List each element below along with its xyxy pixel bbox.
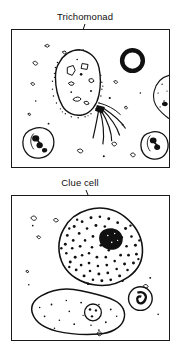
normal-epithelial-cell-nucleus: [85, 304, 102, 321]
yeast-ring: [122, 50, 143, 71]
clue-cell-nucleus: [99, 228, 123, 250]
white-blood-cell-right-outline: [141, 132, 168, 160]
epithelial-cell-edge-outline: [154, 75, 169, 118]
label-trichomonad: Trichomonad: [30, 12, 140, 23]
clue-cell-field-drawing: [12, 196, 169, 340]
figure-root: Trichomonad White blood cells: [0, 0, 178, 353]
trichomonad-field-drawing: [12, 30, 169, 167]
panel-trichomonad: [11, 29, 170, 168]
panel-clue-cell: [11, 195, 170, 341]
trichomonad-basal-body: [95, 105, 105, 114]
label-clue-cell: Clue cell: [40, 178, 120, 189]
clue-cell-outline: [59, 208, 143, 285]
white-blood-cell-bottom-outline: [129, 287, 153, 311]
normal-epithelial-cell-outline: [32, 289, 125, 334]
trichomonad-flagella: [93, 108, 126, 144]
